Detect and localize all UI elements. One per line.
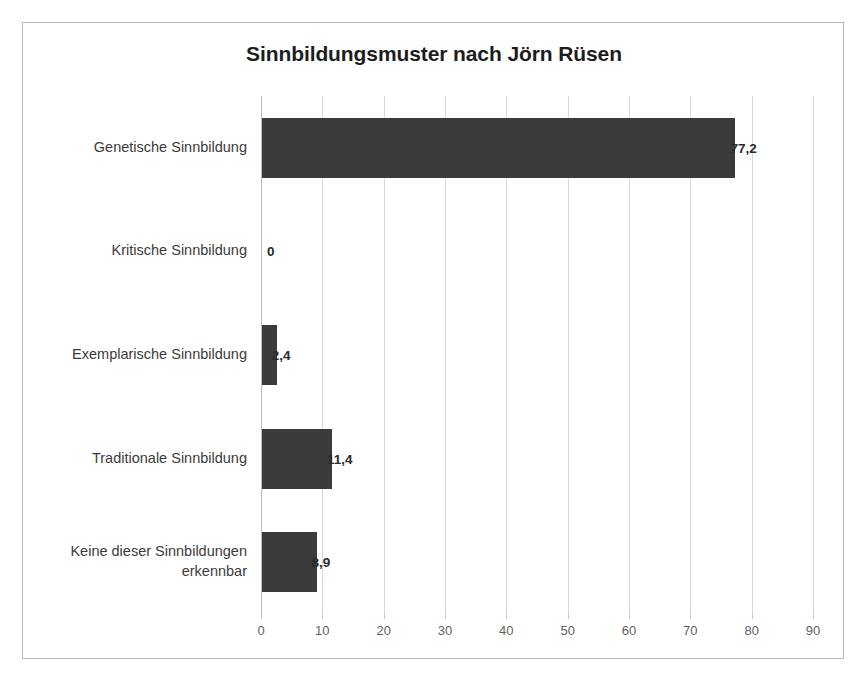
bar-value-label: 0	[267, 244, 275, 259]
bar-row: Exemplarische Sinnbildung2,4	[261, 303, 813, 407]
x-tick-label: 10	[315, 623, 329, 638]
chart-title: Sinnbildungsmuster nach Jörn Rüsen	[23, 42, 845, 66]
tick-mark-60	[629, 614, 630, 619]
tick-mark-0	[261, 614, 262, 619]
bar-value-label: 77,2	[730, 140, 756, 155]
bar-row: Keine dieser Sinnbildungen erkennbar8,9	[261, 510, 813, 614]
x-tick-label: 60	[622, 623, 636, 638]
gridline-90	[813, 96, 814, 614]
x-tick-label: 70	[683, 623, 697, 638]
tick-mark-70	[690, 614, 691, 619]
plot-area: 0102030405060708090 Genetische Sinnbildu…	[261, 96, 813, 614]
tick-mark-50	[568, 614, 569, 619]
category-label: Exemplarische Sinnbildung	[35, 345, 247, 365]
bar-row: Genetische Sinnbildung77,2	[261, 96, 813, 200]
chart-frame: Sinnbildungsmuster nach Jörn Rüsen 01020…	[22, 22, 844, 659]
bar-value-label: 8,9	[312, 555, 331, 570]
x-tick-label: 80	[744, 623, 758, 638]
tick-mark-80	[752, 614, 753, 619]
tick-mark-10	[322, 614, 323, 619]
x-tick-label: 20	[376, 623, 390, 638]
x-tick-label: 90	[806, 623, 820, 638]
bar	[262, 118, 735, 178]
x-tick-label: 0	[257, 623, 264, 638]
x-tick-label: 50	[560, 623, 574, 638]
bar-row: Kritische Sinnbildung0	[261, 200, 813, 304]
tick-mark-90	[813, 614, 814, 619]
bar	[262, 532, 317, 592]
tick-mark-40	[506, 614, 507, 619]
x-tick-label: 40	[499, 623, 513, 638]
bar-row: Traditionale Sinnbildung11,4	[261, 407, 813, 511]
category-label: Kritische Sinnbildung	[35, 242, 247, 262]
category-label: Traditionale Sinnbildung	[35, 449, 247, 469]
category-label: Genetische Sinnbildung	[35, 138, 247, 158]
chart-figure: Sinnbildungsmuster nach Jörn Rüsen 01020…	[0, 0, 863, 684]
tick-mark-30	[445, 614, 446, 619]
category-label: Keine dieser Sinnbildungen erkennbar	[35, 543, 247, 582]
tick-mark-20	[384, 614, 385, 619]
bar	[262, 429, 332, 489]
bar-value-label: 11,4	[327, 451, 353, 466]
bar-value-label: 2,4	[272, 347, 291, 362]
x-tick-label: 30	[438, 623, 452, 638]
